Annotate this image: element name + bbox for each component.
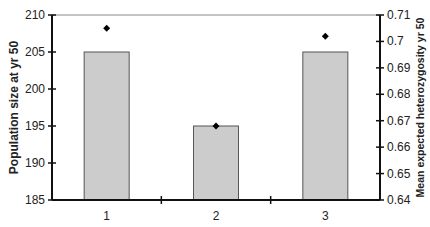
bar-2 — [194, 126, 239, 200]
bar-3 — [303, 52, 348, 200]
left-tick-label: 190 — [25, 156, 45, 170]
left-tick-label: 210 — [25, 8, 45, 22]
right-tick-label: 0.69 — [387, 61, 411, 75]
x-tick-label: 1 — [103, 209, 110, 223]
right-tick-label: 0.68 — [387, 87, 411, 101]
heterozygosity-marker-1 — [103, 25, 110, 32]
dual-axis-bar-chart: 1851901952002052100.640.650.660.670.680.… — [0, 0, 430, 227]
left-axis-title: Population size at yr 50 — [7, 40, 21, 174]
right-tick-label: 0.64 — [387, 193, 411, 207]
left-tick-label: 200 — [25, 82, 45, 96]
left-tick-label: 205 — [25, 45, 45, 59]
right-tick-label: 0.65 — [387, 167, 411, 181]
x-tick-label: 2 — [213, 209, 220, 223]
left-tick-label: 185 — [25, 193, 45, 207]
x-tick-label: 3 — [322, 209, 329, 223]
right-tick-label: 0.7 — [387, 34, 404, 48]
right-tick-label: 0.66 — [387, 140, 411, 154]
right-tick-label: 0.67 — [387, 114, 411, 128]
bar-1 — [84, 52, 129, 200]
heterozygosity-marker-3 — [322, 33, 329, 40]
right-axis-title: Mean expected heterozygosity yr 50 — [414, 17, 426, 197]
left-tick-label: 195 — [25, 119, 45, 133]
right-tick-label: 0.71 — [387, 8, 411, 22]
